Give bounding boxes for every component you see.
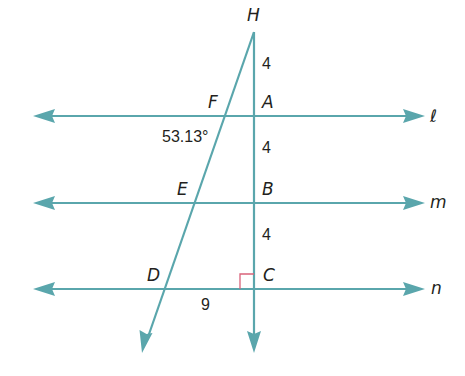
line-label-m: m bbox=[430, 192, 447, 212]
vertical-transversal bbox=[247, 32, 261, 353]
measure-dc: 9 bbox=[201, 296, 210, 313]
line-l bbox=[33, 109, 425, 123]
arrow-left-icon bbox=[33, 282, 55, 296]
right-angle-marker bbox=[240, 274, 254, 289]
angle-label-f: 53.13° bbox=[162, 128, 208, 145]
line-m bbox=[33, 196, 425, 210]
arrow-right-icon bbox=[403, 109, 425, 123]
measure-bc: 4 bbox=[262, 226, 271, 243]
line-label-l: ℓ bbox=[429, 106, 437, 126]
measure-ab: 4 bbox=[262, 139, 271, 156]
measure-ha: 4 bbox=[262, 55, 271, 72]
point-label-c: C bbox=[263, 265, 275, 285]
slanted-transversal bbox=[140, 32, 255, 353]
arrow-left-icon bbox=[33, 196, 55, 210]
point-label-f: F bbox=[208, 92, 218, 112]
arrow-left-icon bbox=[33, 109, 55, 123]
arrow-right-icon bbox=[403, 282, 425, 296]
line-label-n: n bbox=[431, 278, 442, 298]
point-label-a: A bbox=[261, 92, 274, 112]
point-label-h: H bbox=[247, 5, 260, 25]
point-label-b: B bbox=[262, 179, 274, 199]
arrow-right-icon bbox=[403, 196, 425, 210]
parallel-lines-diagram: H A B C F E D ℓ m n 4 4 4 9 53.13° bbox=[0, 0, 465, 376]
arrow-down-icon bbox=[247, 331, 261, 353]
line-n bbox=[33, 282, 425, 296]
point-label-e: E bbox=[177, 179, 188, 199]
point-label-d: D bbox=[147, 265, 160, 285]
arrow-down-left-icon bbox=[140, 330, 153, 353]
